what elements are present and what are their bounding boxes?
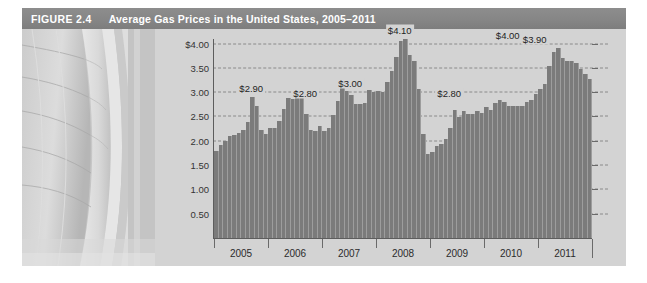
minor-tick xyxy=(592,116,598,117)
minor-tick xyxy=(592,68,598,69)
y-axis-tick-label: 3.00 xyxy=(191,87,210,98)
year-separator xyxy=(268,239,269,248)
y-axis-tick-label: 0.50 xyxy=(191,208,210,219)
minor-tick xyxy=(592,165,598,166)
y-axis-tick-label: $4.00 xyxy=(185,38,209,49)
value-annotation: $3.00 xyxy=(336,78,364,89)
architectural-photo xyxy=(22,29,155,266)
value-annotation: $2.90 xyxy=(237,83,265,94)
bar-series xyxy=(214,29,592,238)
figure-title-bar: FIGURE 2.4 Average Gas Prices in the Uni… xyxy=(22,8,626,29)
x-axis-band: 2005200620072008200920102011 xyxy=(213,239,608,266)
minor-tick xyxy=(592,44,598,45)
figure-container: FIGURE 2.4 Average Gas Prices in the Uni… xyxy=(22,8,626,266)
value-annotation: $4.00 xyxy=(494,29,522,40)
year-separator xyxy=(376,239,377,248)
x-axis-year-label: 2010 xyxy=(500,248,522,259)
plot-inner: $2.90$2.80$3.00$4.10$2.80$4.00$3.90 xyxy=(213,29,608,266)
photo-artwork xyxy=(22,29,155,266)
minor-tick xyxy=(592,141,598,142)
x-axis-year-label: 2006 xyxy=(284,248,306,259)
y-axis-tick-label: 2.00 xyxy=(191,135,210,146)
bar xyxy=(588,79,593,238)
x-axis-year-label: 2008 xyxy=(392,248,414,259)
x-axis-year-label: 2007 xyxy=(338,248,360,259)
y-axis-tick-label: 2.50 xyxy=(191,111,210,122)
year-separator xyxy=(322,239,323,248)
value-annotation: $2.80 xyxy=(291,87,319,98)
x-axis-year-label: 2005 xyxy=(230,248,252,259)
y-axis-tick-label: 1.00 xyxy=(191,184,210,195)
value-annotation: $4.10 xyxy=(386,24,414,35)
year-separator xyxy=(538,239,539,248)
y-axis-labels: $4.003.503.002.502.001.501.000.50 xyxy=(165,29,209,266)
figure-number: FIGURE 2.4 xyxy=(31,13,92,25)
minor-tick xyxy=(592,214,598,215)
x-axis-year-label: 2011 xyxy=(554,248,576,259)
figure-title: Average Gas Prices in the United States,… xyxy=(109,13,376,25)
minor-tick xyxy=(592,189,598,190)
y-axis-tick-label: 3.50 xyxy=(191,62,210,73)
x-axis-year-label: 2009 xyxy=(446,248,468,259)
year-separator xyxy=(430,239,431,248)
plot-wrapper: $4.003.503.002.502.001.501.000.50 $2.90$… xyxy=(155,29,626,266)
value-annotation: $2.80 xyxy=(435,87,463,98)
value-annotation: $3.90 xyxy=(521,34,549,45)
chart-panel: $4.003.503.002.502.001.501.000.50 $2.90$… xyxy=(155,29,626,266)
minor-tick xyxy=(592,92,598,93)
y-axis-tick-label: 1.50 xyxy=(191,160,210,171)
plot-area: $2.90$2.80$3.00$4.10$2.80$4.00$3.90 xyxy=(213,29,608,266)
year-separator xyxy=(214,239,215,248)
year-separator xyxy=(484,239,485,248)
x-axis-right-cap xyxy=(592,239,593,258)
